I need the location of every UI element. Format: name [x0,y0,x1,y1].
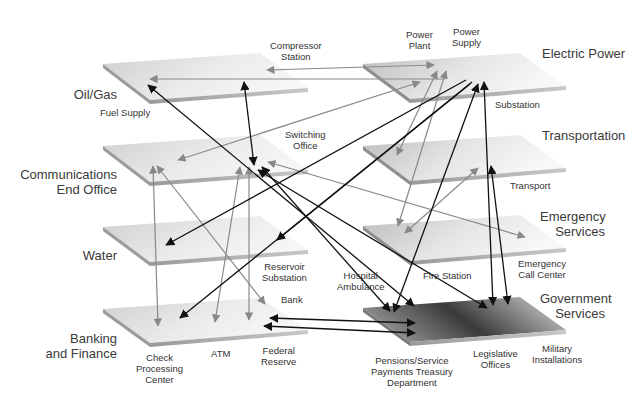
node-label-transport: Transport [510,181,550,192]
node-label-line: Office [285,141,326,152]
sector-label-line: Government [540,292,605,307]
plane-government-services [363,297,566,346]
node-label-line: Station [270,52,322,63]
node-label-emergency-call-center: Emergency Call Center [518,259,566,281]
node-label-line: Supply [452,38,481,49]
node-label-power-supply: Power Supply [452,27,481,49]
plane-communications [103,135,308,186]
node-label-check-processing-center: Check Processing Center [136,353,183,386]
node-label-legislative-offices: Legislative Offices [473,349,518,371]
node-label-hospital-ambulance: Hospital Ambulance [337,271,385,293]
node-label-atm: ATM [211,349,230,360]
sector-label-line: End Office [10,183,117,198]
node-label-line: Center [136,375,183,386]
sector-label-line: Services [540,307,605,322]
node-label-line: Plant [406,41,433,52]
sector-label-banking: Banking and Finance [40,332,117,362]
node-label-power-plant: Power Plant [406,30,433,52]
node-label-line: Department [371,378,453,389]
plane-banking [103,298,308,347]
sector-label-electric-power: Electric Power [542,47,625,62]
black-arrows [148,80,508,333]
infrastructure-interdependency-diagram: Oil/Gas Communications End Office Water … [0,0,643,406]
node-label-substation: Substation [495,100,540,111]
sector-label-line: Communications [10,168,117,183]
node-label-line: Installations [532,355,582,366]
sector-label-water: Water [60,249,117,264]
sector-label-line: Services [540,225,605,240]
sector-label-emergency-services: Emergency Services [540,210,605,240]
node-label-line: Ambulance [337,282,385,293]
node-label-fuel-supply: Fuel Supply [100,108,150,119]
node-label-reservoir-substation: Reservoir Substation [262,262,307,284]
node-label-compressor-station: Compressor Station [270,41,322,63]
node-label-line: Reserve [261,357,296,368]
node-label-bank: Bank [281,295,303,306]
sector-label-line: Banking [40,332,117,347]
node-label-line: Offices [473,360,518,371]
node-label-military-installations: Military Installations [532,344,582,366]
plane-transportation [363,135,566,185]
plane-electric-power [363,53,566,103]
node-label-line: Substation [262,273,307,284]
node-label-pensions-treasury: Pensions/Service Payments Treasury Depar… [371,356,453,389]
node-label-federal-reserve: Federal Reserve [261,346,296,368]
sector-label-communications: Communications End Office [10,168,117,198]
sector-label-line: Emergency [540,210,605,225]
node-label-switching-office: Switching Office [285,130,326,152]
sector-label-government-services: Government Services [540,292,605,322]
node-label-line: Call Center [518,270,566,281]
node-label-fire-station: Fire Station [423,271,472,282]
sector-label-oil-gas: Oil/Gas [60,88,117,103]
sector-label-line: and Finance [40,347,117,362]
sector-label-transportation: Transportation [542,129,625,144]
